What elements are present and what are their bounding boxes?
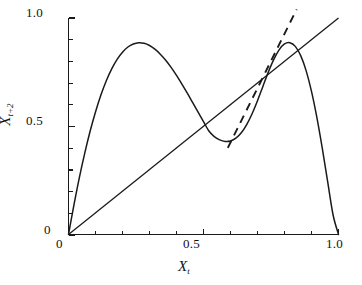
x-axis-title: Xt — [178, 258, 190, 275]
y-axis-title-base: X — [0, 116, 13, 125]
y-axis-title-subscript: t+2 — [5, 103, 15, 116]
x-axis-title-base: X — [178, 258, 187, 274]
x-tick-label-10: 1.0 — [326, 236, 343, 252]
second-iterate-curve — [69, 43, 339, 235]
x-tick-label-05: 0.5 — [183, 236, 200, 252]
x-tick-label-0: 0 — [56, 236, 63, 252]
figure-container: 0 0.5 1.0 0 0.5 1.0 Xt Xt+2 — [0, 0, 362, 285]
x-axis-title-subscript: t — [187, 266, 190, 276]
y-axis-title: Xt+2 — [0, 103, 14, 125]
y-tick-label-0: 0 — [44, 222, 51, 238]
y-tick-label-10: 1.0 — [26, 5, 43, 21]
tangent-dashed-line — [228, 9, 297, 148]
y-tick-label-05: 0.5 — [26, 113, 43, 129]
y-axis-ticks — [69, 18, 75, 235]
plot-canvas — [0, 0, 362, 285]
